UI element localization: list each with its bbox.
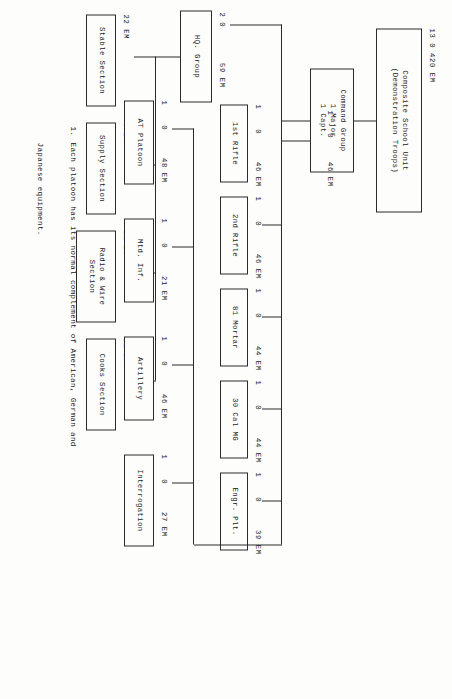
hq-group-enlisted: 59 EM <box>218 63 226 88</box>
unit-1st-rifle-enlisted: 46 EM <box>326 162 334 187</box>
s4-e: 27 EM <box>160 512 168 537</box>
connector-hq-drop <box>230 24 282 25</box>
unit-81-mortar-label: 81 Mortar <box>229 305 239 348</box>
unit-30-cal-mg-strength: 1 0 44 EM <box>254 380 262 462</box>
s4-w: 0 <box>160 479 168 484</box>
unit-1st-rifle-strength-a: 1 0 46 EM <box>254 104 262 186</box>
s1-w: 0 <box>160 125 168 130</box>
u2-o: 1 <box>254 196 262 201</box>
connector-30-cal-mg <box>262 408 282 409</box>
u4-e: 44 EM <box>254 438 262 463</box>
stable-section-box[interactable]: Stable Section <box>86 14 116 106</box>
connector-stable <box>134 56 156 57</box>
unit-interrogation-label: Interrogation <box>134 469 144 531</box>
connector-at-platoon <box>172 128 194 129</box>
unit-artillery-strength: 1 0 46 EM <box>160 336 168 418</box>
connector-root-stem <box>354 120 376 121</box>
connector-second-spine-riser <box>194 544 282 545</box>
u1-o: 1 <box>254 104 262 109</box>
unit-engr-plt-strength: 1 0 39 EM <box>254 472 262 554</box>
unit-interrogation-strength: 1 0 27 EM <box>160 454 168 536</box>
unit-30-cal-mg-label: 30 Cal MG <box>229 397 239 440</box>
note-number: 1. <box>67 126 78 142</box>
unit-engr-plt-box[interactable]: Engr. Plt. <box>220 472 248 550</box>
org-chart-canvas: 13 0 420 EM Composite School Unit (Demon… <box>0 0 452 699</box>
u3-e: 44 EM <box>254 346 262 371</box>
unit-1st-rifle-warrants: 0 <box>326 133 334 138</box>
u2-w: 0 <box>254 221 262 226</box>
s2-o: 1 <box>160 218 168 223</box>
s1-e: 48 EM <box>160 158 168 183</box>
hq-group-strength: 2 0 59 EM <box>218 12 226 87</box>
unit-mtd-inf-box[interactable]: Mtd. Inf. <box>124 218 154 302</box>
unit-1st-rifle-strength: 1 0 46 EM <box>326 110 334 186</box>
u4-o: 1 <box>254 380 262 385</box>
u4-w: 0 <box>254 405 262 410</box>
hq-group-warrants: 0 <box>218 22 226 27</box>
note-indent <box>34 126 45 142</box>
u2-e: 46 EM <box>254 254 262 279</box>
connector-engr-plt <box>262 500 282 501</box>
s2-e: 21 EM <box>160 276 168 301</box>
u5-o: 1 <box>254 472 262 477</box>
connector-1st-rifle <box>282 140 310 141</box>
connector-interrogation <box>172 482 194 483</box>
command-group-line1: Command Group <box>337 89 347 151</box>
u5-w: 0 <box>254 497 262 502</box>
unit-2nd-rifle-strength: 1 0 46 EM <box>254 196 262 278</box>
hq-group-box[interactable]: HQ. Group <box>180 10 212 102</box>
connector-81-mortar <box>262 316 282 317</box>
connector-command-stem <box>282 120 310 121</box>
s4-o: 1 <box>160 454 168 459</box>
root-strength: 13 0 420 EM <box>428 28 436 82</box>
unit-at-platoon-label: AT Platoon <box>134 118 144 166</box>
unit-1st-rifle-officers: 1 <box>326 110 334 115</box>
unit-81-mortar-strength: 1 0 44 EM <box>254 288 262 370</box>
unit-artillery-label: Artillery <box>134 356 144 399</box>
notes-block: 1. Each platoon has its normal complemen… <box>0 126 100 686</box>
hq-group-label: HQ. Group <box>191 34 201 77</box>
note-item-cont: Japanese equipment. <box>34 126 45 686</box>
unit-1st-rifle-box[interactable]: 1st Rifle <box>220 104 248 182</box>
unit-mtd-inf-strength: 1 0 21 EM <box>160 218 168 300</box>
u1-e: 46 EM <box>254 162 262 187</box>
hq-group-officers: 2 <box>218 12 226 17</box>
u1-w: 0 <box>254 129 262 134</box>
connector-artillery <box>172 364 194 365</box>
unit-at-platoon-strength: 1 0 48 EM <box>160 100 168 182</box>
connector-mtd-inf <box>172 246 194 247</box>
unit-81-mortar-box[interactable]: 81 Mortar <box>220 288 248 366</box>
unit-30-cal-mg-box[interactable]: 30 Cal MG <box>220 380 248 458</box>
note-line: Japanese equipment. <box>34 142 45 235</box>
note-item: 2. The Mounted Infantry, 81 Mortar, Arti… <box>0 126 1 686</box>
s3-o: 1 <box>160 336 168 341</box>
s3-e: 46 EM <box>160 394 168 419</box>
s2-w: 0 <box>160 243 168 248</box>
note-item: 1. Each platoon has its normal complemen… <box>67 126 78 686</box>
s1-o: 1 <box>160 100 168 105</box>
note-text: Each platoon has its normal complement o… <box>67 142 78 446</box>
unit-at-platoon-box[interactable]: AT Platoon <box>124 100 154 184</box>
note-line: Each platoon has its normal complement o… <box>69 142 77 446</box>
connector-hq-stem <box>156 56 180 57</box>
unit-1st-rifle-label: 1st Rifle <box>229 121 239 164</box>
note-line: The Mounted Infantry, 81 Mortar, Artille… <box>0 142 1 471</box>
s3-w: 0 <box>160 361 168 366</box>
u3-w: 0 <box>254 313 262 318</box>
root-unit-box[interactable]: Composite School Unit (Demonstration Tro… <box>376 28 422 212</box>
spine-line-units <box>281 24 282 544</box>
note-number: 2. <box>0 126 1 142</box>
root-unit-line2: (Demonstration Troops) <box>389 67 399 172</box>
connector-2nd-rifle <box>262 224 282 225</box>
unit-artillery-box[interactable]: Artillery <box>124 336 154 420</box>
stable-section-strength: 22 EM <box>122 14 130 39</box>
stable-section-label: Stable Section <box>96 27 106 94</box>
root-unit-line1: Composite School Unit <box>399 70 409 171</box>
unit-engr-plt-label: Engr. Plt. <box>229 487 239 535</box>
scanned-page: 13 0 420 EM Composite School Unit (Demon… <box>0 0 452 699</box>
unit-2nd-rifle-box[interactable]: 2nd Rifle <box>220 196 248 274</box>
unit-interrogation-box[interactable]: Interrogation <box>124 454 154 546</box>
u5-e: 39 EM <box>254 530 262 555</box>
unit-2nd-rifle-label: 2nd Rifle <box>229 213 239 256</box>
u3-o: 1 <box>254 288 262 293</box>
